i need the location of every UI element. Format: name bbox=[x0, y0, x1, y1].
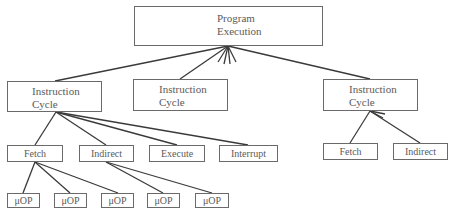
indirect-box-right: Indirect bbox=[393, 143, 448, 160]
instruction-cycle-label-line2: Cycle bbox=[349, 96, 417, 109]
interrupt-box: Interrupt bbox=[219, 145, 278, 162]
micro-op-box: μOP bbox=[195, 193, 229, 208]
micro-op-box: μOP bbox=[7, 193, 40, 208]
micro-op-box: μOP bbox=[147, 193, 180, 208]
instruction-cycle-box-right: Instruction Cycle bbox=[323, 79, 418, 111]
instruction-cycle-label-line1: Instruction bbox=[32, 85, 101, 98]
program-execution-label-line1: Program bbox=[217, 12, 322, 25]
program-execution-box: Program Execution bbox=[134, 6, 323, 46]
fetch-box-left: Fetch bbox=[7, 145, 63, 162]
instruction-cycle-label-line2: Cycle bbox=[159, 96, 227, 109]
indirect-box-left: Indirect bbox=[79, 145, 134, 162]
micro-op-box: μOP bbox=[101, 193, 134, 208]
program-execution-label-line2: Execution bbox=[217, 25, 322, 38]
instruction-cycle-label-line2: Cycle bbox=[32, 98, 101, 111]
instruction-cycle-box-middle: Instruction Cycle bbox=[133, 79, 228, 111]
execute-box: Execute bbox=[149, 145, 205, 162]
fetch-box-right: Fetch bbox=[323, 143, 378, 160]
micro-op-box: μOP bbox=[54, 193, 87, 208]
instruction-cycle-label-line1: Instruction bbox=[349, 83, 417, 96]
instruction-cycle-box-left: Instruction Cycle bbox=[7, 81, 102, 112]
instruction-cycle-label-line1: Instruction bbox=[159, 83, 227, 96]
